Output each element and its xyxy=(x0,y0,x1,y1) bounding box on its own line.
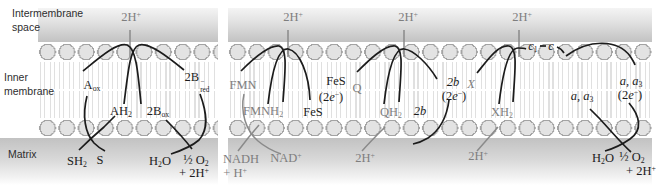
arrow-box-to-bred xyxy=(124,45,184,104)
label-2h-matrix-1: 2H+ xyxy=(355,152,375,165)
label-2b-ox: 2Box xyxy=(147,105,169,118)
label-nad: NAD+ xyxy=(270,152,301,165)
label-fes-lower: FeS xyxy=(303,106,322,119)
label-aa3-left: a, a3 xyxy=(571,90,594,103)
electron-transport-diagram: Intermembrane space Inner membrane Matri… xyxy=(0,0,667,192)
label-2h-matrix-2: 2H+ xyxy=(468,150,488,163)
label-fes-upper: FeS xyxy=(326,75,345,88)
label-intermembrane-space: Intermembrane space xyxy=(12,7,83,35)
label-ah2: AH2 xyxy=(110,105,132,118)
arrow-to-c1 xyxy=(499,48,526,104)
label-a-ox: Aox xyxy=(84,79,101,92)
label-2b-upper: 2b xyxy=(447,76,460,89)
label-2e-fes: (2e−) xyxy=(319,91,344,104)
arrow-o2-to-aa3 xyxy=(590,109,631,152)
label-h2o-left: H2O xyxy=(149,155,171,168)
arrow-c-onward xyxy=(557,47,564,53)
label-half-o2-left: ½ O2 xyxy=(183,154,208,167)
label-plus-h: + H+ xyxy=(223,167,247,180)
arrow-c-to-aa3 xyxy=(566,43,635,65)
arrow-electrons-to-2b xyxy=(384,49,437,104)
label-matrix: Matrix xyxy=(8,148,37,162)
label-inner-membrane: Inner membrane xyxy=(4,71,54,99)
arrow-electrons-to-fes xyxy=(268,49,310,104)
arrow-o2-to-box xyxy=(166,120,192,149)
label-qh2: QH2 xyxy=(380,106,402,119)
label-fmn: FMN xyxy=(229,79,256,92)
label-q: Q xyxy=(352,82,361,95)
label-aa3-right: a, a3 xyxy=(620,75,643,88)
label-2e-aa3: (2e−) xyxy=(618,89,643,102)
label-2h-top-left: 2H+ xyxy=(121,11,141,24)
label-c1: c1 xyxy=(528,40,537,53)
arrow-xh2-to-x xyxy=(477,46,515,102)
label-fmnh2: FMNH2 xyxy=(243,105,283,118)
label-2b-lower: 2b xyxy=(414,105,427,118)
label-nadh: NADH xyxy=(223,153,259,166)
arrow-2h-to-xh2 xyxy=(477,127,498,151)
label-c: c xyxy=(548,40,554,53)
label-sh2: SH2 xyxy=(67,155,87,168)
label-2h-top-2: 2H+ xyxy=(398,11,418,24)
label-plus-2h-left: + 2H+ xyxy=(179,167,209,180)
label-2h-top-1: 2H+ xyxy=(283,11,303,24)
label-s: S xyxy=(97,154,104,167)
label-plus-2h-right: + 2H+ xyxy=(626,165,656,178)
label-2h-top-3: 2H+ xyxy=(512,11,532,24)
label-h2o-right: H2O xyxy=(592,152,614,165)
label-2e-2b: (2e−) xyxy=(442,90,467,103)
arrow-2h-to-qh2 xyxy=(362,127,385,151)
label-x: X xyxy=(467,78,475,91)
arrow-qh2-to-q xyxy=(357,46,401,102)
label-half-o2-right: ½ O2 xyxy=(619,151,644,164)
arrow-fmnh2-to-fmn xyxy=(241,46,285,102)
label-2b-red: 2B−red xyxy=(185,71,210,95)
label-xh2: XH2 xyxy=(491,106,513,119)
